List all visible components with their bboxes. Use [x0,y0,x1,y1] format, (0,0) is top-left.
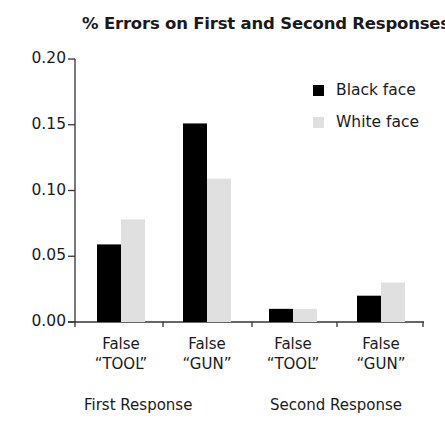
bar-black-face [97,244,121,322]
group-label: Second Response [270,396,402,414]
bar-black-face [269,309,293,322]
legend-item: Black face [313,80,416,100]
legend-label: Black face [336,81,416,99]
x-category-label-line: “GUN” [336,354,426,374]
bar-black-face [357,296,381,322]
x-category-label-line: False [162,334,252,354]
y-tick-label: 0.05 [8,247,66,263]
x-category-label-line: False [336,334,426,354]
x-category-label-line: “TOOL” [248,354,338,374]
bar-white-face [121,219,145,322]
x-category-label-line: False [248,334,338,354]
legend-item: White face [313,112,419,132]
y-tick-label: 0.00 [8,313,66,329]
y-tick-label: 0.10 [8,182,66,198]
x-category-label: False“TOOL” [76,334,166,374]
x-category-label: False“TOOL” [248,334,338,374]
x-category-label-line: False [76,334,166,354]
bar-white-face [381,283,405,322]
legend-label: White face [336,113,419,131]
bar-white-face [293,309,317,322]
y-tick-label: 0.20 [8,50,66,66]
legend-swatch-icon [313,85,324,96]
y-tick-label: 0.15 [8,116,66,132]
x-category-label-line: “TOOL” [76,354,166,374]
bar-black-face [183,123,207,322]
group-label: First Response [84,396,192,414]
x-category-label: False“GUN” [336,334,426,374]
x-category-label: False“GUN” [162,334,252,374]
bar-white-face [207,179,231,322]
x-category-label-line: “GUN” [162,354,252,374]
legend-swatch-icon [313,117,324,128]
